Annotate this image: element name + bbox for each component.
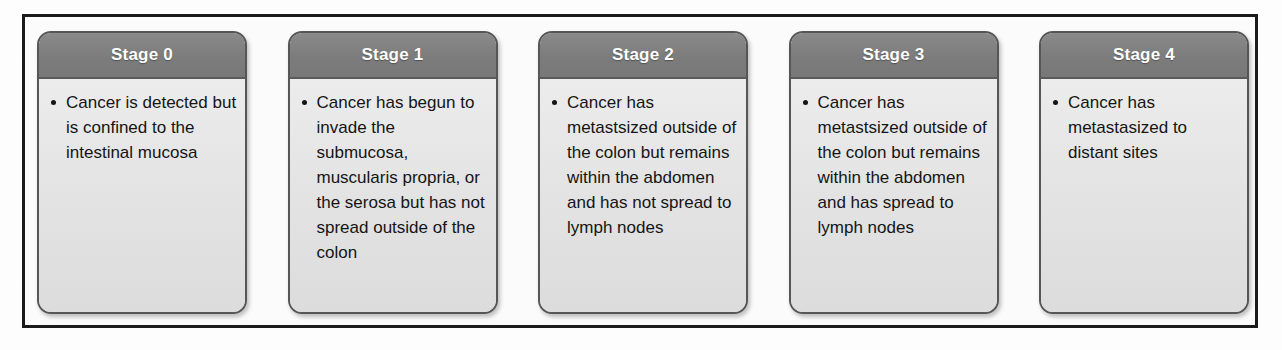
stage-card-3-bullet-text: Cancer has metastsized outside of the co… <box>818 93 987 237</box>
stage-card-4-header: Stage 4 <box>1041 33 1247 79</box>
stage-card-2[interactable]: Stage 2 Cancer has metastsized outside o… <box>538 31 748 314</box>
stage-card-2-header: Stage 2 <box>540 33 746 79</box>
stage-card-row: Stage 0 Cancer is detected but is confin… <box>37 31 1249 314</box>
stage-card-3[interactable]: Stage 3 Cancer has metastsized outside o… <box>789 31 999 314</box>
bullet-dot-icon <box>51 100 56 105</box>
bullet-dot-icon <box>552 100 557 105</box>
stage-card-4-bullet-text: Cancer has metastasized to distant sites <box>1068 93 1187 162</box>
list-item: Cancer is detected but is confined to th… <box>49 90 237 165</box>
stage-card-3-header: Stage 3 <box>791 33 997 79</box>
stage-card-0-body: Cancer is detected but is confined to th… <box>39 79 245 312</box>
stage-card-4-body: Cancer has metastasized to distant sites <box>1041 79 1247 312</box>
stage-card-0[interactable]: Stage 0 Cancer is detected but is confin… <box>37 31 247 314</box>
stage-card-1-header: Stage 1 <box>290 33 496 79</box>
stage-card-2-body: Cancer has metastsized outside of the co… <box>540 79 746 312</box>
list-item: Cancer has begun to invade the submucosa… <box>300 90 488 265</box>
stage-card-1-bullet-text: Cancer has begun to invade the submucosa… <box>317 93 485 262</box>
stage-card-4[interactable]: Stage 4 Cancer has metastasized to dista… <box>1039 31 1249 314</box>
staging-diagram-frame: Stage 0 Cancer is detected but is confin… <box>22 14 1258 328</box>
stage-card-4-bullet-list: Cancer has metastasized to distant sites <box>1051 90 1239 165</box>
bullet-dot-icon <box>302 100 307 105</box>
list-item: Cancer has metastsized outside of the co… <box>550 90 738 240</box>
stage-card-1[interactable]: Stage 1 Cancer has begun to invade the s… <box>288 31 498 314</box>
stage-card-2-bullet-text: Cancer has metastsized outside of the co… <box>567 93 736 237</box>
bullet-dot-icon <box>803 100 808 105</box>
stage-card-1-bullet-list: Cancer has begun to invade the submucosa… <box>300 90 488 265</box>
stage-card-2-bullet-list: Cancer has metastsized outside of the co… <box>550 90 738 240</box>
bullet-dot-icon <box>1053 100 1058 105</box>
scanned-page: Stage 0 Cancer is detected but is confin… <box>0 0 1282 350</box>
stage-card-1-body: Cancer has begun to invade the submucosa… <box>290 79 496 312</box>
list-item: Cancer has metastasized to distant sites <box>1051 90 1239 165</box>
stage-card-0-bullet-text: Cancer is detected but is confined to th… <box>66 93 236 162</box>
stage-card-3-bullet-list: Cancer has metastsized outside of the co… <box>801 90 989 240</box>
stage-card-0-bullet-list: Cancer is detected but is confined to th… <box>49 90 237 165</box>
stage-card-3-body: Cancer has metastsized outside of the co… <box>791 79 997 312</box>
list-item: Cancer has metastsized outside of the co… <box>801 90 989 240</box>
stage-card-0-header: Stage 0 <box>39 33 245 79</box>
